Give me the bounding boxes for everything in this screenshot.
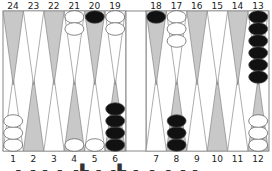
point-label-13: 13 — [248, 1, 268, 11]
point-label-8: 8 — [166, 154, 186, 164]
point-label-17: 17 — [166, 1, 186, 11]
black-checker[interactable] — [167, 115, 186, 128]
black-checker[interactable] — [249, 23, 268, 36]
point-label-23: 23 — [23, 1, 43, 11]
point-label-3: 3 — [44, 154, 64, 164]
point-label-22: 22 — [44, 1, 64, 11]
white-checker[interactable] — [65, 11, 84, 24]
black-checker[interactable] — [106, 103, 125, 116]
point-label-1: 1 — [3, 154, 23, 164]
white-checker[interactable] — [249, 115, 268, 128]
white-checker[interactable] — [249, 139, 268, 152]
point-label-24: 24 — [3, 1, 23, 11]
point-label-5: 5 — [85, 154, 105, 164]
white-checker[interactable] — [85, 139, 104, 152]
point-label-11: 11 — [228, 154, 248, 164]
black-checker[interactable] — [106, 139, 125, 152]
point-label-6: 6 — [105, 154, 125, 164]
black-checker[interactable] — [249, 35, 268, 48]
white-checker[interactable] — [4, 139, 23, 152]
point-label-4: 4 — [64, 154, 84, 164]
footer-text-partial: ▂ ▖▗ ▖▗ ▗▙ ▖▗▙ ▖ ▖ ▖▗ ▖ — [0, 164, 272, 171]
white-checker[interactable] — [106, 11, 125, 24]
point-label-16: 16 — [187, 1, 207, 11]
white-checker[interactable] — [106, 23, 125, 36]
point-label-15: 15 — [207, 1, 227, 11]
white-checker[interactable] — [4, 127, 23, 140]
point-label-9: 9 — [187, 154, 207, 164]
white-checker[interactable] — [167, 11, 186, 24]
board-svg — [0, 0, 272, 171]
point-label-18: 18 — [146, 1, 166, 11]
point-label-7: 7 — [146, 154, 166, 164]
point-label-20: 20 — [85, 1, 105, 11]
black-checker[interactable] — [167, 139, 186, 152]
black-checker[interactable] — [167, 127, 186, 140]
white-checker[interactable] — [249, 127, 268, 140]
black-checker[interactable] — [249, 11, 268, 24]
black-checker[interactable] — [106, 127, 125, 140]
black-checker[interactable] — [106, 115, 125, 128]
black-checker[interactable] — [85, 11, 104, 24]
point-label-10: 10 — [207, 154, 227, 164]
black-checker[interactable] — [147, 11, 166, 24]
black-checker[interactable] — [249, 71, 268, 84]
bar[interactable] — [126, 11, 146, 151]
point-label-21: 21 — [64, 1, 84, 11]
white-checker[interactable] — [65, 139, 84, 152]
backgammon-board — [0, 0, 272, 171]
point-label-12: 12 — [248, 154, 268, 164]
white-checker[interactable] — [65, 23, 84, 36]
white-checker[interactable] — [167, 23, 186, 36]
point-label-2: 2 — [23, 154, 43, 164]
white-checker[interactable] — [4, 115, 23, 128]
black-checker[interactable] — [249, 47, 268, 60]
point-label-19: 19 — [105, 1, 125, 11]
white-checker[interactable] — [167, 35, 186, 48]
black-checker[interactable] — [249, 59, 268, 72]
point-label-14: 14 — [228, 1, 248, 11]
